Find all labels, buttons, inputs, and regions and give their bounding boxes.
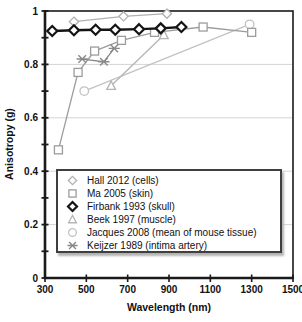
y-tick-label: 1 [32,6,38,17]
x-tick-label: 700 [119,284,136,295]
circle-marker-icon [65,226,80,239]
diamond-bold-marker-icon [65,200,80,213]
legend-item-5: Keijzer 1989 (intima artery) [65,239,278,252]
x-tick-label: 900 [161,284,178,295]
x-dash-marker-icon [65,239,80,252]
x-dash-marker-icon [67,242,77,249]
legend-label: Beek 1997 (muscle) [87,213,176,226]
circle-marker-icon [245,20,254,29]
triangle-marker-icon [65,213,80,226]
diamond-bold-marker-icon [91,25,101,35]
x-tick-label: 300 [37,284,54,295]
x-tick-label: 1100 [199,284,221,295]
legend-label: Jacques 2008 (mean of mouse tissue) [87,226,257,239]
diamond-marker-icon [65,174,80,187]
y-tick-label: 0 [32,273,38,284]
plot-area: 00.20.40.60.81300500700900110013001500 [0,0,302,322]
x-tick-label: 1500 [282,284,302,295]
x-dash-marker-icon [109,45,120,53]
diamond-bold-marker-icon [68,202,77,211]
diamond-bold-marker-icon [176,22,186,32]
legend-label: Keijzer 1989 (intima artery) [87,239,207,252]
legend: Hall 2012 (cells)Ma 2005 (skin)Firbank 1… [56,169,282,253]
square-marker-icon [117,36,125,44]
square-marker-icon [248,28,256,36]
diamond-bold-marker-icon [69,25,79,35]
y-tick-label: 0.2 [24,219,38,230]
series-line-4 [84,24,249,91]
legend-item-2: Firbank 1993 (skull) [65,200,278,213]
legend-label: Firbank 1993 (skull) [87,200,175,213]
legend-item-1: Ma 2005 (skin) [65,187,278,200]
y-tick-label: 0.8 [24,59,38,70]
legend-item-3: Beek 1997 (muscle) [65,213,278,226]
square-marker-icon [54,146,62,154]
y-tick-label: 0.6 [24,112,38,123]
square-marker-icon [74,68,82,76]
x-tick-label: 500 [78,284,95,295]
diamond-marker-icon [68,176,76,184]
diamond-bold-marker-icon [134,24,144,34]
circle-marker-icon [80,87,89,96]
x-axis-title: Wavelength (nm) [127,301,211,313]
triangle-marker-icon [69,215,77,222]
legend-item-4: Jacques 2008 (mean of mouse tissue) [65,226,278,239]
circle-marker-icon [69,229,77,237]
diamond-bold-marker-icon [47,26,57,36]
square-marker-icon [199,23,207,31]
y-tick-label: 0.4 [24,166,38,177]
diamond-marker-icon [119,12,128,21]
x-tick-label: 1300 [241,284,264,295]
legend-item-0: Hall 2012 (cells) [65,174,278,187]
square-marker-icon [65,187,80,200]
anisotropy-vs-wavelength-chart: Anisotropy (g) 00.20.40.60.8130050070090… [0,0,302,322]
square-marker-icon [69,190,76,197]
legend-label: Ma 2005 (skin) [87,187,153,200]
legend-label: Hall 2012 (cells) [87,174,159,187]
square-marker-icon [91,47,99,55]
diamond-bold-marker-icon [110,25,120,35]
